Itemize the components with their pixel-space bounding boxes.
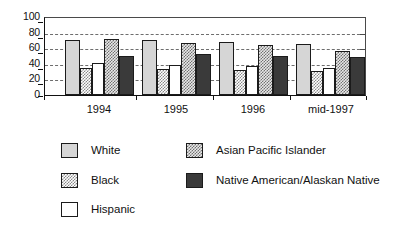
y-tick-mark	[38, 53, 43, 54]
y-tick-label: 0	[34, 89, 40, 100]
legend-item-white: White	[61, 143, 120, 158]
bar-asian-pacific-islander-1994	[104, 39, 119, 95]
x-tick-label: mid-1997	[293, 103, 369, 115]
legend-item-black: Black	[61, 173, 119, 188]
y-tick-mark	[38, 84, 43, 85]
legend-swatch-asian-pacific-islander-icon	[186, 143, 203, 158]
y-tick-mark	[38, 96, 43, 97]
legend-item-hispanic: Hispanic	[61, 202, 135, 217]
y-tick-mark	[38, 38, 43, 39]
plot-frame	[44, 17, 366, 96]
bar-black-1994	[80, 68, 92, 95]
y-tick-mark	[38, 22, 43, 23]
legend-label: White	[91, 144, 120, 157]
y-tick-label: 80	[29, 27, 40, 38]
x-tick-label: 1994	[63, 103, 135, 115]
bar-white-1996	[219, 42, 234, 95]
bar-asian-pacific-islander-1996	[258, 45, 273, 95]
bar-series-container	[45, 18, 365, 95]
x-tick-label: 1995	[140, 103, 212, 115]
x-axis: 1994 1995 1996 mid-1997	[44, 99, 366, 123]
bar-white-1994	[65, 40, 80, 95]
bar-white-1995	[142, 40, 157, 95]
legend-swatch-hispanic-icon	[61, 202, 78, 217]
bar-asian-pacific-islander-mid-1997	[335, 51, 350, 96]
legend-label: Asian Pacific Islander	[216, 144, 326, 157]
y-tick-mark	[38, 69, 43, 70]
bar-native-american-alaskan-native-1996	[273, 56, 288, 95]
bar-white-mid-1997	[296, 44, 311, 96]
bar-black-1995	[157, 69, 169, 96]
legend-swatch-white-icon	[61, 143, 78, 158]
chart-plot-region: 100 80 60 40 20 0	[0, 0, 401, 128]
bar-native-american-alaskan-native-mid-1997	[350, 57, 365, 95]
legend-swatch-black-icon	[61, 173, 78, 188]
bar-black-mid-1997	[311, 71, 323, 95]
y-tick-label: 40	[29, 58, 40, 69]
x-tick-mark	[366, 96, 367, 100]
bar-black-1996	[234, 70, 246, 95]
y-tick-label: 60	[29, 42, 40, 53]
legend-label: Hispanic	[91, 203, 135, 216]
legend-label: Native American/Alaskan Native	[216, 174, 380, 187]
bar-hispanic-mid-1997	[323, 68, 335, 95]
bar-hispanic-1996	[246, 66, 258, 95]
chart-legend: White Black Hispanic Asian Pacific Islan…	[0, 132, 401, 231]
chart-figure: 100 80 60 40 20 0	[0, 0, 401, 231]
bar-hispanic-1995	[169, 65, 181, 95]
y-axis: 100 80 60 40 20 0	[0, 10, 40, 103]
bar-asian-pacific-islander-1995	[181, 43, 196, 95]
y-tick-label: 20	[29, 73, 40, 84]
x-tick-label: 1996	[217, 103, 289, 115]
legend-item-asian-pacific-islander: Asian Pacific Islander	[186, 143, 326, 158]
legend-item-native-american-alaskan-native: Native American/Alaskan Native	[186, 173, 380, 188]
bar-hispanic-1994	[92, 63, 104, 95]
legend-label: Black	[91, 174, 119, 187]
legend-swatch-native-american-alaskan-native-icon	[186, 173, 203, 188]
y-tick-label: 100	[23, 11, 40, 22]
bar-native-american-alaskan-native-1994	[119, 56, 134, 95]
bar-native-american-alaskan-native-1995	[196, 54, 211, 95]
